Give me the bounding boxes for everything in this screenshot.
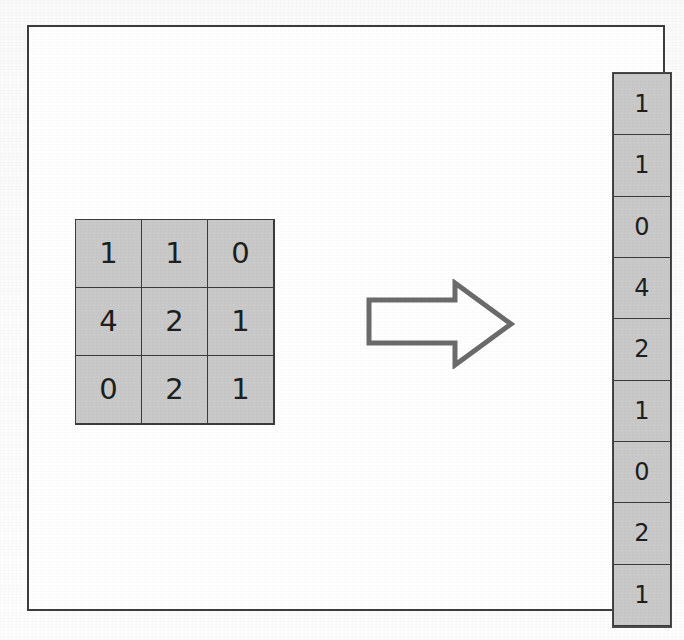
vector-cell: 1 [613,564,671,626]
figure-frame: 1 1 0 4 2 1 0 2 1 1 1 0 4 2 1 0 2 1 [27,25,665,611]
vector-cell: 4 [613,257,671,319]
matrix-cell: 0 [207,219,274,288]
right-block-arrow-icon [365,279,515,369]
matrix-cell: 1 [207,355,274,424]
matrix-cell: 2 [141,355,208,424]
vector-cell: 0 [613,196,671,258]
source-matrix-grid: 1 1 0 4 2 1 0 2 1 [75,219,275,425]
vector-cell: 2 [613,318,671,380]
vector-cell: 0 [613,441,671,503]
matrix-cell: 1 [207,287,274,356]
matrix-cell: 1 [141,219,208,288]
vector-cell: 1 [613,380,671,442]
vector-cell: 2 [613,502,671,564]
flattened-vector-column: 1 1 0 4 2 1 0 2 1 [612,72,672,628]
matrix-cell: 0 [75,355,142,424]
vector-cell: 1 [613,73,671,135]
matrix-cell: 2 [141,287,208,356]
matrix-cell: 4 [75,287,142,356]
matrix-cell: 1 [75,219,142,288]
vector-cell: 1 [613,134,671,196]
